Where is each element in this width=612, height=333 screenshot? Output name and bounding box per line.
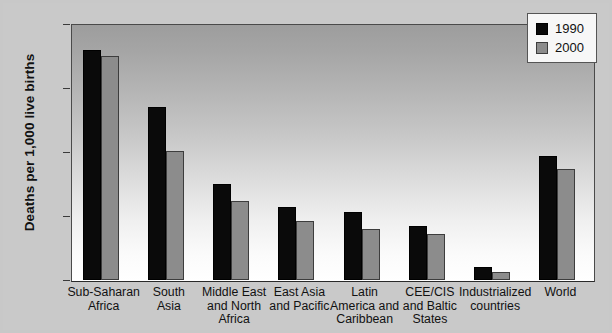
bar-2000 xyxy=(231,201,249,280)
x-category-label-line: Sub-Saharan xyxy=(66,286,141,300)
x-category-label-line: countries xyxy=(458,300,533,314)
bar-group xyxy=(148,24,184,280)
x-category-label-line: Africa xyxy=(66,300,141,314)
x-category-label-line: Africa xyxy=(197,313,272,327)
bar-1990 xyxy=(539,156,557,280)
y-tick-mark xyxy=(63,216,70,217)
x-category-label-line: Asia xyxy=(131,300,206,314)
bar-group xyxy=(83,24,119,280)
x-category-label-line: Caribbean xyxy=(327,313,402,327)
x-category-label-line: Latin xyxy=(327,286,402,300)
y-axis-title: Deaths per 1,000 live births xyxy=(22,43,37,243)
x-category-label-line: Middle East xyxy=(197,286,272,300)
x-category-label-line: Industrialized xyxy=(458,286,533,300)
bar-1990 xyxy=(278,207,296,280)
legend-swatch-icon xyxy=(536,23,548,35)
legend-item-1990: 1990 xyxy=(536,19,584,38)
x-category-label: World xyxy=(523,286,598,300)
legend-label: 1990 xyxy=(555,21,584,36)
y-tick-mark xyxy=(63,24,70,25)
y-tick-mark xyxy=(63,88,70,89)
legend: 19902000 xyxy=(527,13,597,63)
bar-2000 xyxy=(557,169,575,280)
x-category-label-line: States xyxy=(392,313,467,327)
bar-group xyxy=(213,24,249,280)
x-category-label-line: South xyxy=(131,286,206,300)
bar-chart-figure: Deaths per 1,000 live births 05010015020… xyxy=(0,0,612,333)
bar-2000 xyxy=(296,221,314,280)
bar-1990 xyxy=(148,107,166,280)
x-category-label-line: and North xyxy=(197,300,272,314)
legend-label: 2000 xyxy=(555,40,584,55)
x-category-label: East Asiaand Pacific xyxy=(262,286,337,313)
bar-1990 xyxy=(474,267,492,280)
chart-frame: Deaths per 1,000 live births 05010015020… xyxy=(3,3,609,330)
bar-2000 xyxy=(362,229,380,280)
y-tick-mark xyxy=(63,280,70,281)
bar-group xyxy=(409,24,445,280)
x-category-label-line: World xyxy=(523,286,598,300)
legend-swatch-icon xyxy=(536,42,548,54)
bar-1990 xyxy=(409,226,427,280)
x-category-label-line: East Asia xyxy=(262,286,337,300)
x-category-label: Sub-SaharanAfrica xyxy=(66,286,141,313)
legend-item-2000: 2000 xyxy=(536,38,584,57)
x-category-label: LatinAmerica andCaribbean xyxy=(327,286,402,327)
bar-1990 xyxy=(213,184,231,280)
bar-group xyxy=(278,24,314,280)
bar-group xyxy=(344,24,380,280)
x-category-label: Industrializedcountries xyxy=(458,286,533,313)
x-category-label-line: America and xyxy=(327,300,402,314)
bar-1990 xyxy=(344,212,362,280)
bar-2000 xyxy=(101,56,119,280)
bar-1990 xyxy=(83,50,101,280)
bar-2000 xyxy=(427,234,445,280)
x-category-label-line: and Baltic xyxy=(392,300,467,314)
x-category-label: Middle Eastand NorthAfrica xyxy=(197,286,272,327)
bar-group xyxy=(474,24,510,280)
y-tick-mark xyxy=(63,152,70,153)
x-category-label-line: CEE/CIS xyxy=(392,286,467,300)
bar-2000 xyxy=(492,272,510,280)
x-category-label: SouthAsia xyxy=(131,286,206,313)
x-category-label: CEE/CISand BalticStates xyxy=(392,286,467,327)
bar-2000 xyxy=(166,151,184,280)
x-category-label-line: and Pacific xyxy=(262,300,337,314)
